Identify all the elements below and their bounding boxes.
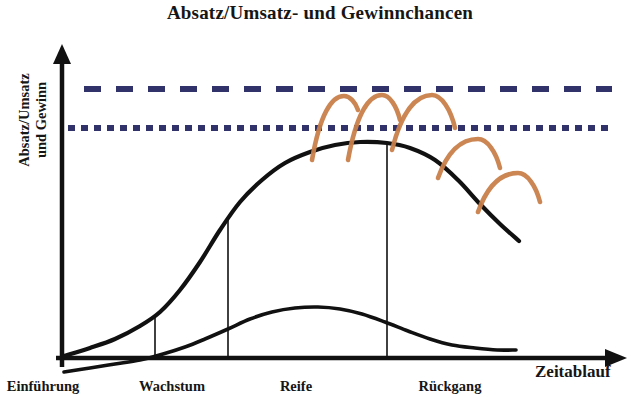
chart-plot-area — [0, 0, 640, 396]
series-curve-gewinn — [64, 307, 516, 372]
stage-divider-group — [155, 144, 387, 358]
series-curve-absatz-umsatz — [64, 142, 519, 356]
x-axis-arrowhead — [605, 349, 627, 367]
opportunity-arc-2 — [392, 95, 455, 150]
curve-series-group — [64, 142, 519, 372]
axes-group — [53, 44, 627, 367]
y-axis-arrowhead — [53, 44, 71, 64]
opportunity-arc-4 — [478, 173, 540, 212]
